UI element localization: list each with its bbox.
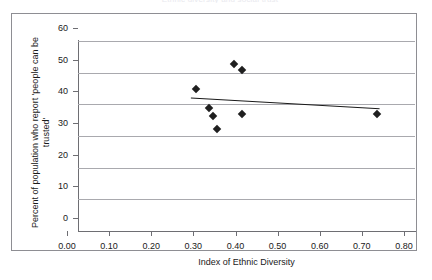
x-tick-label-0.30: 0.30 [173, 242, 213, 251]
x-tick-label-0.70: 0.70 [342, 242, 382, 251]
chart-title-remnant: Ethnic diversity and social trust [70, 0, 370, 3]
x-tick-label-0.60: 0.60 [300, 242, 340, 251]
plot-area [78, 41, 415, 231]
x-tick-label-0.80: 0.80 [384, 242, 424, 251]
chart-frame: 0102030405060 0.000.100.200.300.400.500.… [11, 13, 417, 251]
x-tick-label-0.50: 0.50 [258, 242, 298, 251]
x-tick-0.00 [67, 231, 68, 236]
chart-figure: Ethnic diversity and social trust 010203… [0, 0, 432, 280]
y-tick-60 [73, 28, 78, 29]
y-axis-title: Percent of population who report 'people… [30, 33, 51, 233]
x-tick-label-0.20: 0.20 [131, 242, 171, 251]
x-axis-title: Index of Ethnic Diversity [78, 257, 415, 267]
x-tick-label-0.40: 0.40 [216, 242, 256, 251]
gridline-y-0 [78, 231, 415, 232]
x-tick-label-0.00: 0.00 [47, 242, 87, 251]
x-tick-label-0.10: 0.10 [89, 242, 129, 251]
